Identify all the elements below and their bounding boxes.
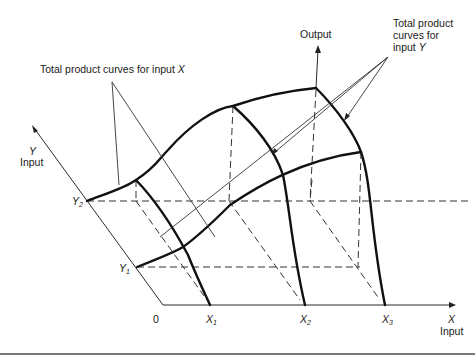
y-axis-name-label: Input	[20, 156, 43, 168]
output-axis	[316, 50, 318, 88]
total-product-curves-y	[87, 88, 361, 267]
tp-curve-x1	[136, 180, 210, 305]
tp-curve-y2	[87, 88, 316, 201]
tp-y-label-line2: curves for	[393, 29, 440, 41]
y-input-axis	[34, 128, 163, 305]
output-axis-arrowhead-icon	[315, 45, 321, 53]
origin-label: 0	[153, 313, 159, 325]
tp-x-label: Total product curves for input X	[40, 63, 186, 75]
output-label: Output	[300, 28, 332, 40]
tp-y-label-line3: input Y	[393, 41, 427, 53]
dashed-projection-lines	[87, 90, 468, 300]
total-product-curves-x	[136, 88, 385, 305]
y1-tick-label: Y1	[119, 262, 130, 275]
tp-curve-x3	[316, 88, 385, 305]
x-axis-name-label: Input	[440, 325, 463, 337]
axes	[32, 45, 456, 308]
x1-tick-label: X1	[205, 313, 217, 326]
x2-tick-label: X2	[299, 313, 311, 326]
x-axis-arrowhead-icon	[449, 302, 456, 308]
production-surface-diagram: Total product curves for input X Output …	[0, 0, 475, 357]
x-axis-var-label: X	[447, 313, 456, 325]
tp-y-label-line1: Total product	[393, 17, 453, 29]
y2-tick-label: Y2	[72, 195, 83, 208]
x3-tick-label: X3	[381, 313, 393, 326]
label-pointers	[112, 57, 388, 237]
